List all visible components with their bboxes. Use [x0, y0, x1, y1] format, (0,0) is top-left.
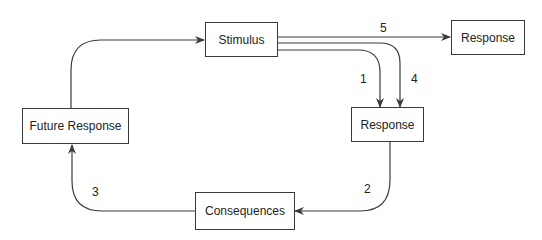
edge-label-2: 2 — [364, 182, 371, 196]
future-response-node: Future Response — [22, 108, 129, 144]
edge-label-4: 4 — [411, 72, 418, 86]
edge-4-stimulus-to-response-mid — [278, 43, 400, 107]
response-top-label: Response — [461, 31, 515, 45]
edge-future-to-stimulus — [71, 40, 204, 108]
edge-label-1: 1 — [360, 72, 367, 86]
response-mid-node: Response — [351, 107, 424, 142]
consequences-node: Consequences — [195, 192, 295, 230]
edge-3-consequences-to-future — [72, 145, 195, 211]
stimulus-node: Stimulus — [205, 22, 278, 57]
edge-2-response-to-consequences — [295, 142, 390, 211]
response-top-node: Response — [451, 20, 525, 55]
stimulus-label: Stimulus — [218, 33, 264, 47]
edge-label-5: 5 — [380, 21, 387, 35]
edge-label-3: 3 — [92, 185, 99, 199]
consequences-label: Consequences — [205, 204, 285, 218]
future-response-label: Future Response — [29, 119, 121, 133]
response-mid-label: Response — [360, 118, 414, 132]
